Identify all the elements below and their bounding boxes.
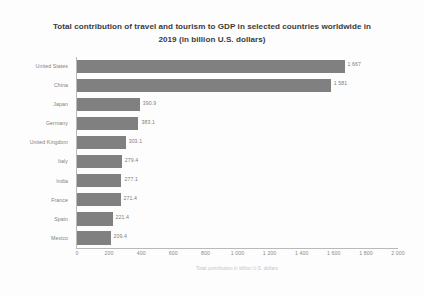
bar[interactable] bbox=[77, 174, 121, 187]
x-axis-line bbox=[76, 248, 398, 249]
category-label: Japan bbox=[0, 95, 72, 114]
bar-row[interactable]: 271.4 bbox=[77, 191, 398, 210]
bar-row[interactable]: 1 581 bbox=[77, 76, 398, 95]
bar-row[interactable]: 1 667 bbox=[77, 57, 398, 76]
bar[interactable] bbox=[77, 212, 113, 225]
x-tick-label: 800 bbox=[201, 250, 210, 256]
bar-value-label: 271.4 bbox=[124, 195, 137, 201]
bar-row[interactable]: 383.1 bbox=[77, 114, 398, 133]
x-tick-label: 0 bbox=[76, 250, 79, 256]
x-tick-label: 600 bbox=[169, 250, 178, 256]
plot-area: 1 6671 581390.9383.1303.1279.4277.1271.4… bbox=[76, 57, 398, 248]
chart-figure: Total contribution of travel and tourism… bbox=[0, 0, 424, 295]
x-axis-title: Total contribution in billion U.S. dolla… bbox=[76, 266, 398, 271]
category-label: United States bbox=[0, 57, 72, 76]
bar[interactable] bbox=[77, 155, 122, 168]
chart-title-line-1: Total contribution of travel and tourism… bbox=[53, 22, 371, 31]
x-tick-label: 200 bbox=[105, 250, 114, 256]
category-label: Germany bbox=[0, 114, 72, 133]
x-axis-tick-labels: 02004006008001 0001 2001 4001 6001 8002 … bbox=[76, 250, 398, 260]
bar[interactable] bbox=[77, 98, 140, 111]
x-tick-label: 1 800 bbox=[359, 250, 372, 256]
x-tick-label: 1 000 bbox=[231, 250, 244, 256]
bar[interactable] bbox=[77, 231, 111, 244]
bar-value-label: 209.4 bbox=[114, 233, 127, 239]
bar-value-label: 383.1 bbox=[141, 119, 154, 125]
category-label: Italy bbox=[0, 152, 72, 171]
x-tick-label: 2 000 bbox=[391, 250, 404, 256]
x-tick-label: 1 200 bbox=[263, 250, 276, 256]
category-label: Mexico bbox=[0, 229, 72, 248]
bar-row[interactable]: 209.4 bbox=[77, 229, 398, 248]
category-label: France bbox=[0, 191, 72, 210]
bar-value-label: 390.9 bbox=[143, 100, 156, 106]
bar-row[interactable]: 221.4 bbox=[77, 210, 398, 229]
x-tick-label: 400 bbox=[137, 250, 146, 256]
bar-series: 1 6671 581390.9383.1303.1279.4277.1271.4… bbox=[77, 57, 398, 248]
bar-row[interactable]: 279.4 bbox=[77, 152, 398, 171]
bar-row[interactable]: 277.1 bbox=[77, 172, 398, 191]
bar-value-label: 277.1 bbox=[124, 176, 137, 182]
bar[interactable] bbox=[77, 117, 138, 130]
x-tick-label: 1 600 bbox=[327, 250, 340, 256]
category-label: India bbox=[0, 172, 72, 191]
bar-row[interactable]: 390.9 bbox=[77, 95, 398, 114]
category-axis-labels: United StatesChinaJapanGermanyUnited Kin… bbox=[0, 57, 72, 248]
chart-title: Total contribution of travel and tourism… bbox=[30, 20, 394, 46]
bar[interactable] bbox=[77, 136, 126, 149]
chart-title-line-2: 2019 (in billion U.S. dollars) bbox=[30, 33, 394, 46]
bar-value-label: 1 667 bbox=[348, 61, 361, 67]
bar-value-label: 279.4 bbox=[125, 157, 138, 163]
bar-value-label: 1 581 bbox=[334, 80, 347, 86]
x-tick-label: 1 400 bbox=[295, 250, 308, 256]
category-label: China bbox=[0, 76, 72, 95]
category-label: United Kingdom bbox=[0, 133, 72, 152]
bar[interactable] bbox=[77, 193, 121, 206]
bar-value-label: 221.4 bbox=[116, 214, 129, 220]
bar-value-label: 303.1 bbox=[129, 138, 142, 144]
bar-row[interactable]: 303.1 bbox=[77, 133, 398, 152]
bar[interactable] bbox=[77, 60, 345, 73]
category-label: Spain bbox=[0, 210, 72, 229]
bar[interactable] bbox=[77, 79, 331, 92]
